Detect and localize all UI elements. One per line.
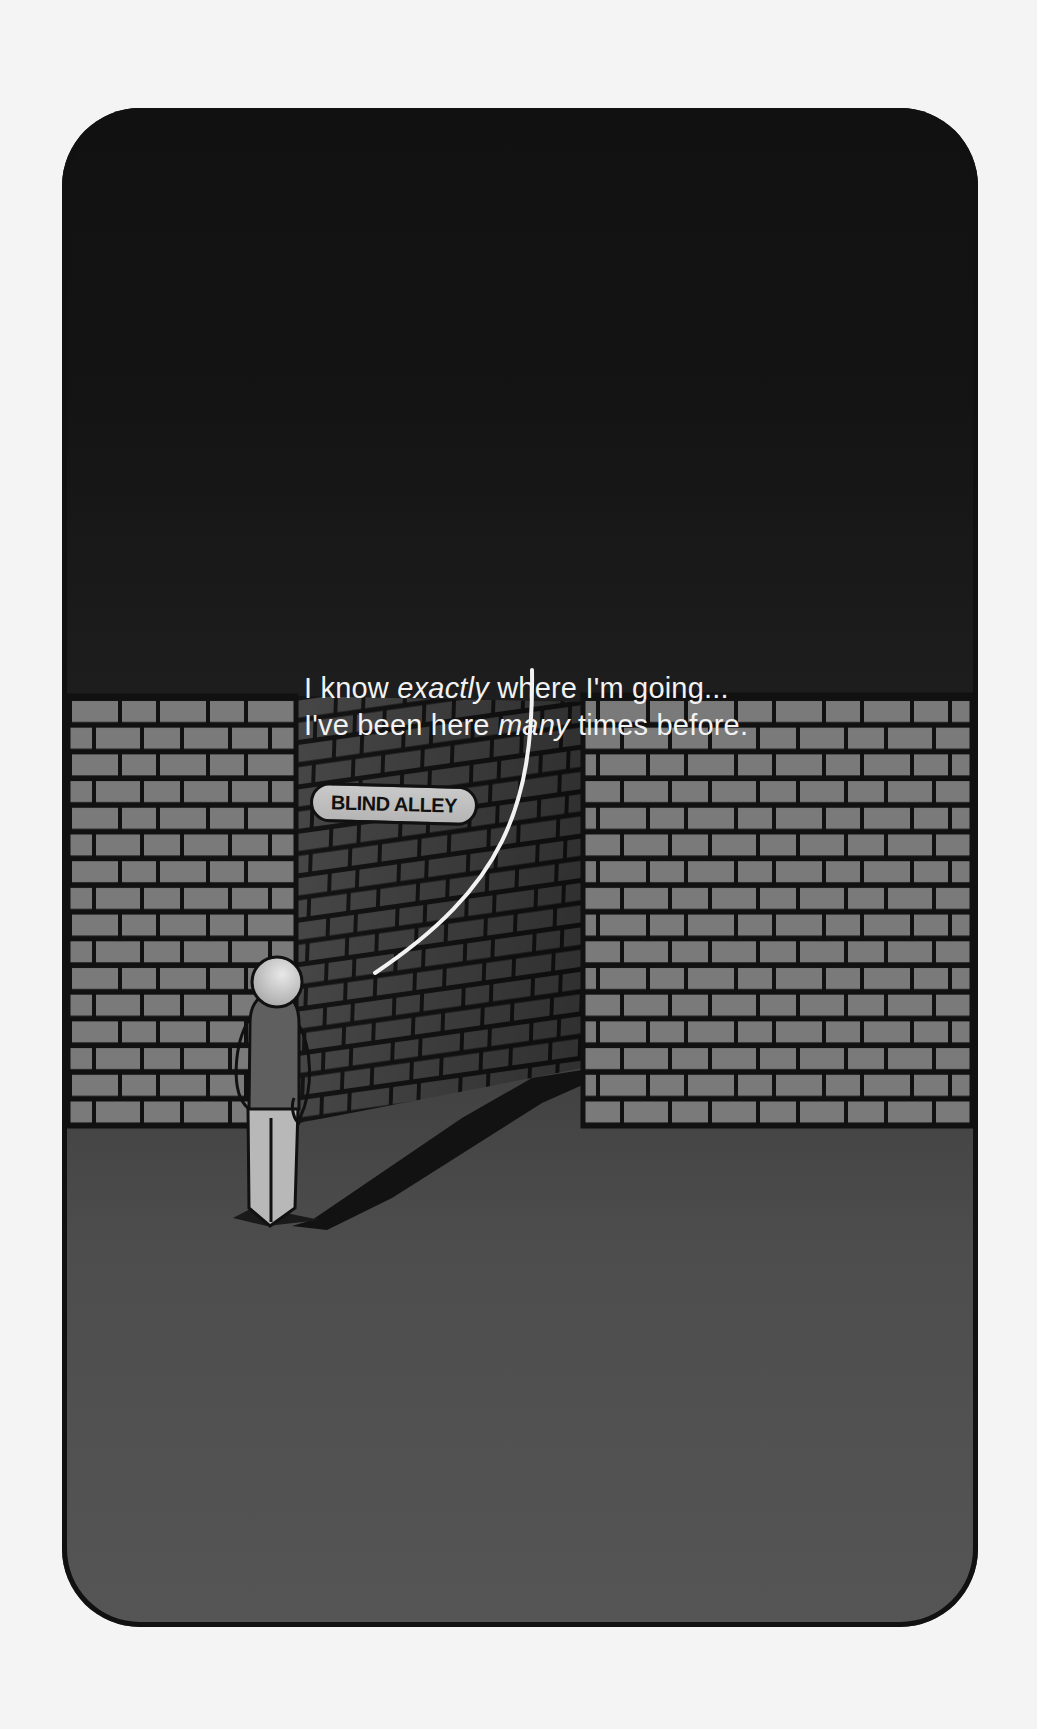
alley-scene: [62, 108, 978, 1627]
right-brick-wall: [583, 695, 972, 1126]
speech-caption: I know exactly where I'm going... I've b…: [304, 670, 748, 744]
sign-label: BLIND ALLEY: [331, 791, 458, 817]
blind-alley-sign: BLIND ALLEY: [310, 782, 479, 826]
caption-line-2: I've been here many times before.: [304, 707, 748, 744]
comic-panel: I know exactly where I'm going... I've b…: [62, 108, 978, 1627]
corridor-wall: [294, 696, 583, 1124]
caption-line-1: I know exactly where I'm going...: [304, 670, 748, 707]
figure-head: [252, 957, 302, 1007]
